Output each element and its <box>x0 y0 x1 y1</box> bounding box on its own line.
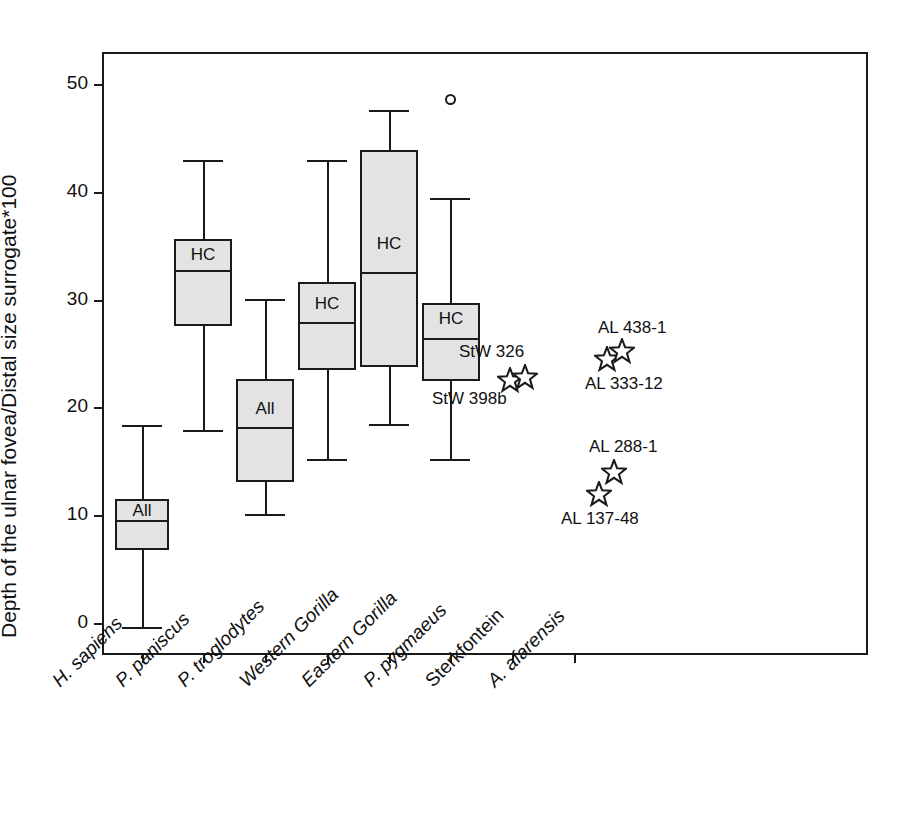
y-tick-label-0: 0 <box>28 611 88 633</box>
star-marker-al-438-1 <box>609 338 635 364</box>
y-tick-label-30: 30 <box>28 288 88 310</box>
star-label-al-333-12: AL 333-12 <box>585 374 663 394</box>
star-label-stw-326: StW 326 <box>459 342 524 362</box>
y-tick-50 <box>94 84 104 86</box>
star-label-al-288-1: AL 288-1 <box>589 437 657 457</box>
y-tick-10 <box>94 515 104 517</box>
x-tick-7 <box>574 653 576 663</box>
star-label-stw-398b: StW 398b <box>432 389 507 409</box>
star-marker-stw-326 <box>512 364 538 390</box>
y-tick-label-40: 40 <box>28 180 88 202</box>
whisker-upper <box>450 198 452 303</box>
chart-canvas: Depth of the ulnar fovea/Distal size sur… <box>0 0 913 819</box>
whisker-cap-lower <box>430 459 470 461</box>
y-tick-40 <box>94 192 104 194</box>
star-label-al-438-1: AL 438-1 <box>598 318 666 338</box>
y-tick-20 <box>94 407 104 409</box>
y-tick-label-50: 50 <box>28 72 88 94</box>
y-tick-30 <box>94 300 104 302</box>
median-line <box>422 338 480 340</box>
star-marker-al-137-48 <box>586 481 612 507</box>
star-label-al-137-48: AL 137-48 <box>561 509 639 529</box>
y-tick-label-20: 20 <box>28 395 88 417</box>
plot-frame: 0 10 20 30 40 50 All <box>102 52 868 655</box>
outlier-point <box>445 94 456 105</box>
y-axis-title: Depth of the ulnar fovea/Distal size sur… <box>0 38 21 638</box>
y-tick-label-10: 10 <box>28 503 88 525</box>
